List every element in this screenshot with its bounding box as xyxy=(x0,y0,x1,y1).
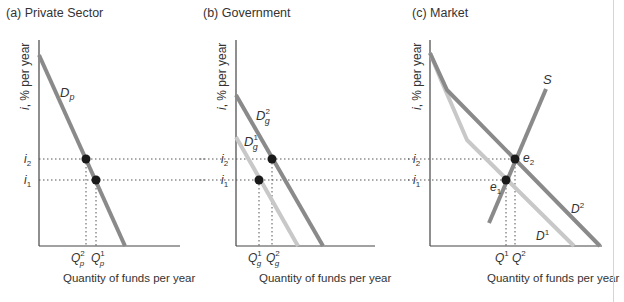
panel-b: D2g D1g i2 i1 Q1g Q2g xyxy=(200,40,410,268)
panel-c-point-e2 xyxy=(511,155,520,164)
panel-c-i2-tick: i2 xyxy=(413,152,421,168)
panel-b-dg2-curve xyxy=(236,95,323,246)
panel-b-point-i2 xyxy=(268,155,277,164)
panel-b-dg1-label: D1g xyxy=(244,133,258,152)
panel-c-e1-label: e1 xyxy=(490,180,502,196)
panel-a-i1-tick: i1 xyxy=(24,173,32,189)
panel-c-point-e1 xyxy=(502,176,511,185)
panel-a-q2-tick: Q2p xyxy=(71,249,85,268)
panel-a-i2-tick: i2 xyxy=(24,152,32,168)
panel-c-d2-curve xyxy=(430,53,600,246)
panel-a-q1-tick: Q1p xyxy=(91,249,105,268)
panel-a-point-i1 xyxy=(92,176,101,185)
panel-b-dg1-curve xyxy=(236,137,298,246)
panel-c-i1-tick: i1 xyxy=(413,173,421,189)
panel-c-d1-label: D1 xyxy=(536,228,550,243)
panel-b-i2-tick: i2 xyxy=(221,152,229,168)
chart-canvas: Dp i2 i1 Q2p Q1p D2g D1g i2 i1 Q1g Q2g xyxy=(0,0,624,302)
panel-c-e2-label: e2 xyxy=(523,151,535,167)
panel-b-dg2-label: D2g xyxy=(256,107,270,126)
panel-c-s-label: S xyxy=(543,72,552,87)
panel-c-q1-tick: Q1 xyxy=(495,249,509,265)
panel-a-point-i2 xyxy=(82,155,91,164)
panel-c-q2-tick: Q2 xyxy=(512,249,526,265)
panel-b-q2-tick: Q2g xyxy=(266,249,280,268)
panel-a: Dp i2 i1 Q2p Q1p xyxy=(24,40,205,268)
panel-c: S e2 e1 D2 D1 i2 i1 Q1 Q2 xyxy=(408,40,602,265)
panel-b-point-i1 xyxy=(255,176,264,185)
panel-b-q1-tick: Q1g xyxy=(248,249,262,268)
panel-c-d2-label: D2 xyxy=(571,201,585,216)
panel-a-dp-label: Dp xyxy=(60,85,74,102)
panel-a-demand-curve xyxy=(39,55,125,246)
panel-c-d1-curve xyxy=(430,53,574,246)
panel-b-i1-tick: i1 xyxy=(221,173,229,189)
